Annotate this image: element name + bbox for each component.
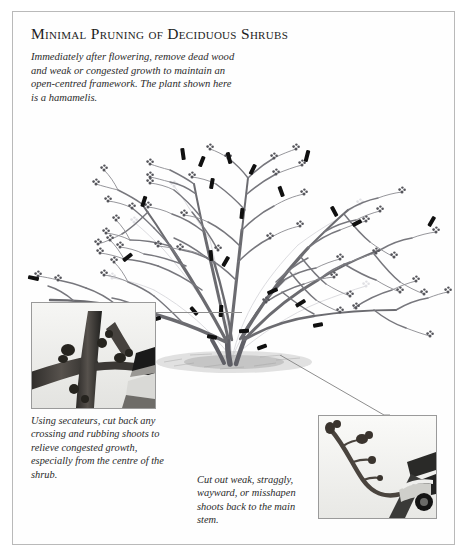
leader-line-left (156, 312, 242, 313)
inset-secateurs-crossing-shoots (31, 302, 156, 409)
inset-secateurs-straggly-shoot (318, 415, 437, 519)
caption-left: Using secateurs, cut back any crossing a… (31, 414, 181, 481)
leader-line-right (280, 355, 390, 417)
page-title: Minimal Pruning of Deciduous Shrubs (31, 25, 421, 43)
book-page: Minimal Pruning of Deciduous Shrubs Imme… (0, 0, 468, 558)
caption-right: Cut out weak, straggly, wayward, or miss… (197, 473, 317, 527)
